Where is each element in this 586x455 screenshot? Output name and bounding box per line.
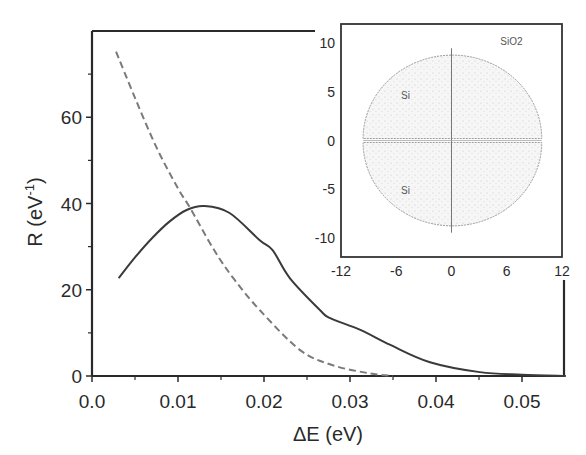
inset-annotation: SiO2 [500,36,523,47]
y-tick-label: 20 [61,280,82,301]
inset-annotation: Si [401,90,410,101]
x-tick-label: 0.0 [79,391,105,412]
y-tick-label: 40 [61,194,82,215]
x-tick-label: 0.05 [504,391,541,412]
inset-annotation: Si [401,185,410,196]
y-tick-label: 0 [71,366,82,387]
y-axis-title: R (eV-1) [22,177,46,246]
x-tick-label: 0.01 [160,391,197,412]
inset-y-tick-label: -5 [323,181,336,197]
y-axis-title-close: ) [24,177,46,184]
inset-x-tick-label: -12 [331,263,351,279]
y-axis-title-sup: -1 [22,184,37,196]
inset-y-tick-label: -10 [315,230,335,246]
x-tick-label: 0.04 [418,391,455,412]
inset-y-tick-label: 0 [327,133,335,149]
inset-x-tick-label: 12 [554,263,570,279]
chart: 0.00.010.020.030.040.050204060ΔE (eV)R (… [0,0,586,455]
x-axis-title: ΔE (eV) [293,423,363,445]
inset-x-tick-label: 6 [503,263,511,279]
inset-x-tick-label: -6 [390,263,403,279]
y-axis-title-main: R (eV [24,195,46,247]
x-tick-label: 0.03 [332,391,369,412]
x-tick-label: 0.02 [246,391,283,412]
inset-y-tick-label: 5 [327,84,335,100]
y-tick-label: 60 [61,107,82,128]
inset-y-tick-label: 10 [319,35,335,51]
inset-plot: -12-60612-10-50510SiO2SiSi [315,24,570,279]
inset-x-tick-label: 0 [448,263,456,279]
